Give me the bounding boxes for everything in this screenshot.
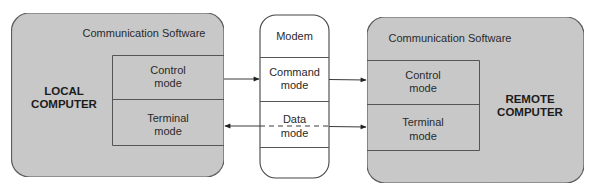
- svg-text:mode: mode: [154, 125, 182, 137]
- modem-communication-diagram: Communication Software LOCAL COMPUTER Co…: [0, 0, 591, 194]
- svg-text:mode: mode: [281, 79, 309, 91]
- svg-text:mode: mode: [409, 130, 437, 142]
- svg-text:mode: mode: [154, 77, 182, 89]
- local-computer-label-line1: LOCAL: [44, 85, 84, 97]
- svg-text:Data: Data: [283, 113, 307, 125]
- remote-software-title: Communication Software: [389, 32, 512, 44]
- svg-text:mode: mode: [281, 127, 309, 139]
- modem-title: Modem: [276, 30, 313, 42]
- remote-computer-label-line2: COMPUTER: [497, 106, 564, 118]
- arrow-modem-data-to-remote-terminal: [329, 127, 366, 128]
- local-control-mode: Control mode: [150, 64, 185, 89]
- remote-control-mode: Control mode: [405, 69, 440, 94]
- svg-text:Terminal: Terminal: [147, 112, 189, 124]
- svg-text:Terminal: Terminal: [402, 116, 444, 128]
- remote-computer-label-line1: REMOTE: [505, 93, 555, 105]
- arrow-modem-command-to-remote-control: [329, 80, 366, 81]
- svg-text:Command: Command: [269, 66, 320, 78]
- local-computer: Communication Software LOCAL COMPUTER Co…: [12, 13, 225, 177]
- modem: Modem Command mode Data mode: [260, 15, 329, 178]
- remote-computer: Communication Software REMOTE COMPUTER C…: [367, 17, 584, 183]
- svg-text:Control: Control: [405, 69, 440, 81]
- svg-text:Control: Control: [150, 64, 185, 76]
- local-computer-label-line2: COMPUTER: [31, 98, 98, 110]
- svg-text:mode: mode: [409, 82, 437, 94]
- local-software-title: Communication Software: [83, 27, 206, 39]
